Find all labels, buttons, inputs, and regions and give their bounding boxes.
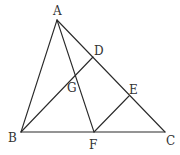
- label-c: C: [166, 134, 175, 148]
- segments-group: [21, 20, 165, 132]
- label-g: G: [67, 81, 77, 95]
- segment-ab: [21, 20, 57, 132]
- label-e: E: [129, 83, 138, 97]
- label-f: F: [89, 138, 97, 152]
- segment-fe: [94, 96, 129, 132]
- geometry-diagram: A B C D E F G: [0, 0, 180, 155]
- label-b: B: [8, 131, 17, 145]
- label-a: A: [52, 4, 62, 18]
- segment-bd: [21, 57, 93, 132]
- labels-group: A B C D E F G: [8, 4, 175, 152]
- label-d: D: [94, 44, 104, 58]
